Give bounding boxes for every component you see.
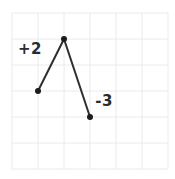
data-point <box>87 114 93 120</box>
grid-paper-canvas: +2 -3 <box>0 0 175 179</box>
data-point <box>61 36 67 42</box>
slope-label-negative: -3 <box>95 92 113 110</box>
data-point <box>35 88 41 94</box>
slope-line-chart <box>0 0 175 179</box>
slope-label-positive: +2 <box>18 40 42 58</box>
